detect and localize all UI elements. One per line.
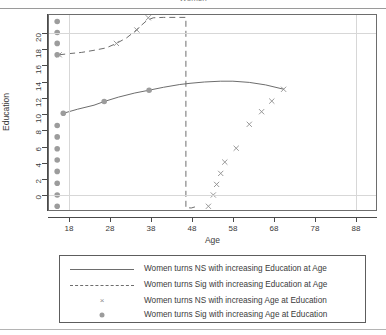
x-tick	[151, 217, 152, 222]
series-1	[59, 17, 197, 208]
x-tick	[315, 217, 316, 222]
dashed-line-icon	[70, 285, 134, 286]
legend-key-dot-marker	[66, 307, 138, 323]
x-tick	[356, 217, 357, 222]
legend-label-3: Women turns Sig with increasing Age at E…	[144, 310, 327, 319]
chart-figure: Women 02468101214161820 1828384858687888…	[0, 0, 386, 335]
x-tick	[233, 217, 234, 222]
x-tick	[274, 217, 275, 222]
gridline-horizontal	[49, 33, 376, 34]
plot-inner	[49, 15, 376, 210]
gridline-horizontal	[49, 195, 376, 196]
chart-legend: Women turns NS with increasing Education…	[59, 255, 366, 323]
y-axis-title: Education	[1, 93, 11, 131]
footer-divider	[0, 329, 386, 330]
legend-label-0: Women turns NS with increasing Education…	[144, 264, 327, 273]
x-marker-icon: ×	[100, 297, 105, 305]
x-tick	[69, 217, 70, 222]
y-axis-line	[47, 14, 48, 211]
x-tick-label: 38	[147, 224, 156, 233]
legend-label-1: Women turns Sig with increasing Educatio…	[144, 280, 327, 289]
x-tick-label: 58	[229, 224, 238, 233]
dot-marker-icon	[100, 313, 105, 318]
x-tick	[192, 217, 193, 222]
plot-figure: 02468101214161820 1828384858687888 Age E…	[0, 9, 386, 327]
x-tick-label: 18	[65, 224, 74, 233]
x-tick	[110, 217, 111, 222]
legend-key-dashed-line	[66, 277, 138, 293]
x-tick-label: 28	[106, 224, 115, 233]
x-tick-label: 88	[352, 224, 361, 233]
legend-key-solid-line	[66, 261, 138, 277]
chart-title: Women	[0, 0, 386, 3]
x-tick-label: 78	[311, 224, 320, 233]
legend-item-3[interactable]: Women turns Sig with increasing Age at E…	[60, 307, 365, 323]
solid-line-icon	[70, 269, 134, 270]
x-axis-line	[48, 217, 377, 218]
x-axis-title: Age	[48, 235, 377, 245]
x-tick-label: 68	[270, 224, 279, 233]
gridline-vertical	[69, 15, 70, 210]
legend-item-1[interactable]: Women turns Sig with increasing Educatio…	[60, 277, 365, 293]
series-0	[63, 81, 284, 113]
gridline-vertical	[356, 15, 357, 210]
series-2	[57, 15, 287, 209]
plot-svg	[49, 15, 376, 210]
x-tick-label: 48	[188, 224, 197, 233]
legend-item-0[interactable]: Women turns NS with increasing Education…	[60, 261, 365, 277]
legend-label-2: Women turns NS with increasing Age at Ed…	[144, 296, 327, 305]
plot-area	[48, 14, 377, 211]
